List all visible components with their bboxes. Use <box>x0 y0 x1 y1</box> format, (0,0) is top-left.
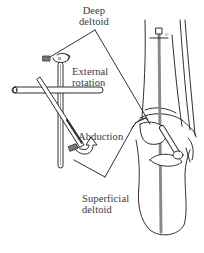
label-deep-line1: Deep <box>79 5 109 16</box>
label-external-rotation: External rotation <box>72 66 108 88</box>
talus-heel <box>132 118 193 235</box>
label-superficial-deltoid: Superficial deltoid <box>82 193 129 215</box>
label-sup-line2: deltoid <box>82 204 129 215</box>
label-ext-line1: External <box>72 66 108 77</box>
svg-text:5°: 5° <box>165 32 169 37</box>
label-abduction-text: Abduction <box>78 131 123 142</box>
label-deep-line2: deltoid <box>79 16 109 27</box>
label-ext-line2: rotation <box>72 77 108 88</box>
label-sup-line1: Superficial <box>82 193 129 204</box>
deltoid-illustration: B 5° <box>0 0 204 253</box>
label-abduction: Abduction <box>78 131 123 142</box>
external-rotation-arrow: B <box>43 53 70 62</box>
diagram-canvas: B 5° <box>0 0 204 253</box>
leader-lines <box>50 30 148 177</box>
label-deep-deltoid: Deep deltoid <box>79 5 109 27</box>
